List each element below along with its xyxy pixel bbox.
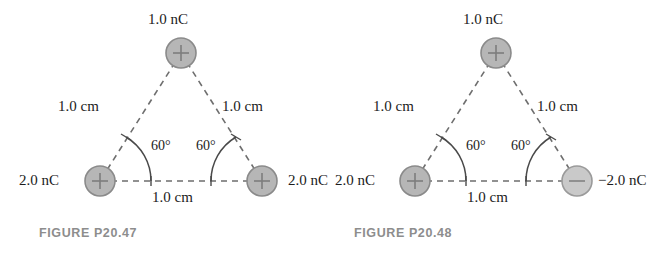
side-left-label: 1.0 cm xyxy=(58,99,99,114)
top-charge xyxy=(481,38,511,68)
figure-p2047: 1.0 nC 2.0 nC 2.0 nC 1.0 cm 1.0 cm 1.0 c… xyxy=(0,0,336,254)
side-right-label: 1.0 cm xyxy=(537,99,578,114)
figure-caption: FIGURE P20.47 xyxy=(39,226,137,240)
side-right-line xyxy=(181,53,262,181)
side-bottom-label: 1.0 cm xyxy=(467,190,508,205)
side-left-label: 1.0 cm xyxy=(373,99,414,114)
bottom-left-charge xyxy=(85,166,115,196)
bottom-right-charge xyxy=(247,166,277,196)
bottom-right-charge-label: 2.0 nC xyxy=(288,173,328,188)
side-left-line xyxy=(100,53,181,181)
bottom-left-charge xyxy=(400,166,430,196)
bottom-right-charge xyxy=(562,166,592,196)
top-charge-label: 1.0 nC xyxy=(463,12,503,27)
top-charge-label: 1.0 nC xyxy=(148,12,188,27)
angle-arc-left xyxy=(441,137,466,181)
bottom-left-charge-label: 2.0 nC xyxy=(335,173,375,188)
angle-arc-left xyxy=(126,137,151,181)
bottom-right-charge-label: −2.0 nC xyxy=(598,173,646,188)
angle-right-label: 60° xyxy=(511,139,531,153)
side-left-line xyxy=(415,53,496,181)
figure-caption: FIGURE P20.48 xyxy=(354,226,452,240)
bottom-left-charge-label: 2.0 nC xyxy=(19,173,59,188)
top-charge xyxy=(166,38,196,68)
side-bottom-label: 1.0 cm xyxy=(152,190,193,205)
figure-p2048: 1.0 nC 2.0 nC −2.0 nC 1.0 cm 1.0 cm 1.0 … xyxy=(335,0,671,254)
angle-left-label: 60° xyxy=(466,139,486,153)
angle-right-label: 60° xyxy=(196,139,216,153)
angle-left-label: 60° xyxy=(151,139,171,153)
side-right-label: 1.0 cm xyxy=(222,99,263,114)
side-right-line xyxy=(496,53,577,181)
